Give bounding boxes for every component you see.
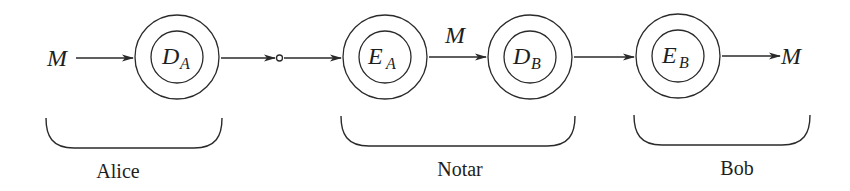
- node-da-base: D: [161, 43, 179, 69]
- node-da-subscript: A: [179, 55, 190, 72]
- node-ea: E A: [343, 15, 427, 99]
- node-eb-outer-ring: [636, 14, 720, 98]
- node-db: D B: [488, 15, 572, 99]
- node-ea-subscript: A: [385, 55, 396, 72]
- node-eb-inner-ring: [652, 30, 704, 82]
- protocol-diagram: M D A E A M D B E B M: [0, 0, 850, 191]
- brace-bob: [634, 115, 810, 145]
- group-label-alice: Alice: [96, 160, 139, 182]
- group-label-bob: Bob: [720, 157, 753, 179]
- node-da: D A: [135, 15, 219, 99]
- node-ea-inner-ring: [359, 31, 411, 83]
- brace-notar: [341, 116, 575, 146]
- node-eb-base: E: [661, 42, 677, 68]
- junction-node: [277, 55, 283, 61]
- brace-alice: [46, 118, 222, 148]
- node-eb: E B: [636, 14, 720, 98]
- input-message-label: M: [46, 45, 69, 71]
- middle-message-label: M: [444, 22, 467, 48]
- node-ea-base: E: [367, 43, 383, 69]
- output-message-label: M: [780, 43, 803, 69]
- node-ea-outer-ring: [343, 15, 427, 99]
- node-db-subscript: B: [531, 55, 541, 72]
- group-label-notar: Notar: [437, 158, 483, 180]
- node-eb-subscript: B: [679, 54, 689, 71]
- node-db-base: D: [512, 43, 530, 69]
